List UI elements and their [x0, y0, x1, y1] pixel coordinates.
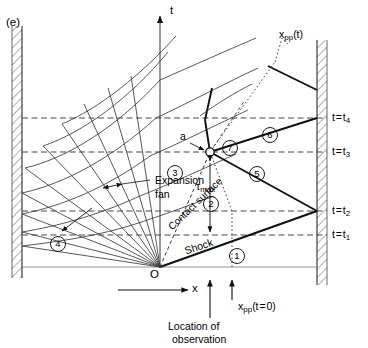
xpp-t-sub: pp [284, 33, 293, 42]
panel-label: (e) [6, 16, 20, 29]
region-label-2: 2 [203, 196, 219, 212]
tau-max-label: τmax [196, 180, 215, 194]
particle-path-xpp [210, 38, 282, 267]
point-a-label: a [180, 130, 186, 142]
time-label-t4-text: t = t [332, 111, 346, 123]
xpp-t0-label: xpp(t = 0) [238, 300, 276, 314]
location-of-observation-line1: Location of [168, 320, 219, 332]
region-4-pointer [62, 208, 92, 231]
left-wall [12, 26, 22, 278]
tau-max-sub: max [200, 185, 215, 194]
region-label-5: 5 [249, 166, 265, 182]
time-label-t2: t = t2 [332, 204, 350, 218]
xpp-t-arg: (t) [293, 28, 303, 40]
x-axis-label: x [192, 282, 198, 295]
point-a-pointer [190, 143, 204, 150]
time-label-t2-text: t = t [332, 204, 346, 216]
time-label-t1: t = t1 [332, 228, 350, 242]
region-label-4: 4 [50, 236, 66, 252]
location-of-observation-line2: observation [172, 333, 226, 345]
origin-label: O [150, 268, 159, 281]
time-label-t3: t = t3 [332, 145, 350, 159]
t-axis-label: t [170, 4, 173, 17]
figure-panel: (e) t O x t = t4 t = t3 t = t2 t = t1 Ex… [0, 0, 368, 348]
shock-above-a [205, 88, 212, 152]
time-label-t1-text: t = t [332, 228, 346, 240]
xpp-t0-sub: pp [243, 305, 252, 314]
xpp-t-label: xpp(t) [279, 28, 303, 42]
time-label-t1-sub: 1 [346, 233, 350, 242]
expansion-fan-rays [22, 76, 160, 267]
time-label-t4-sub: 4 [346, 116, 350, 125]
reflected-shock-to-a [210, 152, 317, 211]
region-label-3: 3 [167, 165, 183, 181]
time-label-t3-sub: 3 [346, 150, 350, 159]
region-label-7: 7 [222, 140, 238, 156]
time-label-t4: t = t4 [332, 111, 350, 125]
reflected-characteristics [22, 36, 176, 246]
xpp-t0-arg: (t = 0) [252, 300, 276, 312]
region-label-1: 1 [229, 248, 245, 264]
point-a-marker [206, 148, 214, 156]
expansion-fan-label-line2: fan [155, 188, 170, 200]
upper-shock-branch [268, 66, 317, 90]
time-label-t3-text: t = t [332, 145, 346, 157]
time-label-t2-sub: 2 [346, 209, 350, 218]
region-label-6: 6 [262, 127, 278, 143]
right-wall [317, 40, 327, 285]
